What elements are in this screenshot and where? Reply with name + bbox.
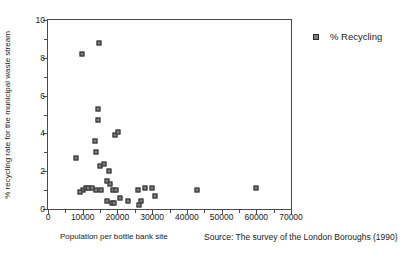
chart-legend: % Recycling bbox=[313, 32, 382, 42]
legend-label-recycling: % Recycling bbox=[330, 32, 382, 42]
data-point bbox=[108, 182, 113, 187]
x-axis-minor-tick bbox=[135, 209, 136, 213]
data-point bbox=[114, 188, 119, 193]
data-point bbox=[153, 193, 158, 198]
data-point bbox=[112, 201, 117, 206]
x-axis-tick-label: 10000 bbox=[71, 213, 95, 222]
x-axis-tick-label: 50000 bbox=[210, 213, 234, 222]
y-axis-tick-label: 8 bbox=[40, 54, 45, 63]
x-axis-tick-label: 60000 bbox=[244, 213, 268, 222]
legend-marker-recycling bbox=[313, 34, 319, 40]
scatter-chart-figure: % recycling rate for the municipal waste… bbox=[0, 0, 420, 263]
y-axis-tick-label: 4 bbox=[40, 129, 45, 138]
x-axis-minor-tick bbox=[204, 209, 205, 213]
x-axis-tick-label: 40000 bbox=[175, 213, 199, 222]
y-axis-minor-tick bbox=[44, 190, 48, 191]
x-axis-minor-tick bbox=[65, 209, 66, 213]
y-axis-title-text: % recycling rate for the municipal waste… bbox=[4, 31, 12, 199]
y-axis-minor-tick bbox=[44, 39, 48, 40]
x-axis-tick-label: 30000 bbox=[140, 213, 164, 222]
y-axis-minor-tick bbox=[44, 152, 48, 153]
data-point bbox=[93, 188, 98, 193]
y-axis-tick-label: 10 bbox=[36, 16, 45, 25]
data-point bbox=[126, 199, 131, 204]
x-axis-tick-label: 0 bbox=[46, 213, 51, 222]
y-axis-title: % recycling rate for the municipal waste… bbox=[2, 19, 14, 210]
data-point bbox=[116, 129, 121, 134]
data-point bbox=[254, 186, 259, 191]
data-point bbox=[92, 138, 97, 143]
x-axis-minor-tick bbox=[239, 209, 240, 213]
data-point bbox=[143, 186, 148, 191]
data-point bbox=[73, 155, 78, 160]
y-axis-minor-tick bbox=[44, 77, 48, 78]
data-point bbox=[117, 195, 122, 200]
data-point bbox=[79, 52, 84, 57]
data-point bbox=[194, 188, 199, 193]
data-point bbox=[77, 189, 82, 194]
data-point bbox=[85, 186, 90, 191]
x-axis-title: Population per bottle bank site bbox=[60, 233, 168, 241]
plot-area: 0246810010000200003000040000500006000070… bbox=[47, 19, 292, 210]
x-axis-tick-label: 70000 bbox=[279, 213, 303, 222]
y-axis-tick-label: 2 bbox=[40, 167, 45, 176]
data-point bbox=[107, 169, 112, 174]
data-point bbox=[101, 161, 106, 166]
y-axis-minor-tick bbox=[44, 115, 48, 116]
y-axis-tick-label: 0 bbox=[40, 205, 45, 214]
data-point bbox=[93, 150, 98, 155]
data-point bbox=[99, 188, 104, 193]
data-point bbox=[95, 106, 100, 111]
y-axis-tick-label: 6 bbox=[40, 91, 45, 100]
data-point bbox=[136, 188, 141, 193]
data-point bbox=[150, 186, 155, 191]
x-axis-minor-tick bbox=[100, 209, 101, 213]
data-point bbox=[137, 203, 142, 208]
data-point bbox=[95, 118, 100, 123]
x-axis-tick-label: 20000 bbox=[106, 213, 130, 222]
data-point bbox=[96, 40, 101, 45]
x-axis-minor-tick bbox=[274, 209, 275, 213]
x-axis-minor-tick bbox=[170, 209, 171, 213]
source-note: Source: The survey of the London Borough… bbox=[204, 233, 398, 242]
